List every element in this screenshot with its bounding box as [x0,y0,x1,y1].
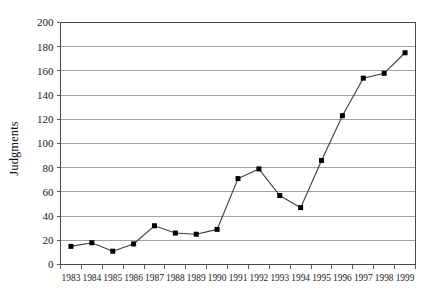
x-tick-label: 1986 [124,273,143,283]
y-tick-label: 200 [37,16,54,28]
y-tick-label: 80 [43,162,55,174]
y-tick-label: 0 [48,258,54,270]
x-tick-label: 1989 [187,273,206,283]
plot-area: 0204060801001201401601802001983198419851… [0,0,437,297]
series-line-judgments [71,53,405,251]
y-tick-label: 20 [43,234,55,246]
data-point-marker [68,244,73,249]
y-tick-label: 180 [37,41,54,53]
y-tick-label: 120 [37,113,54,125]
x-tick-label: 1983 [62,273,81,283]
y-tick-label: 100 [37,137,54,149]
x-tick-label: 1996 [333,273,352,283]
data-point-marker [215,227,220,232]
data-point-marker [236,176,241,181]
data-point-marker [131,241,136,246]
data-point-marker [194,232,199,237]
y-tick-label: 140 [37,89,54,101]
x-tick-label: 1999 [396,273,415,283]
data-point-marker [340,113,345,118]
x-tick-label: 1993 [270,273,289,283]
data-point-marker [319,158,324,163]
data-point-marker [173,231,178,236]
x-tick-label: 1992 [250,273,269,283]
data-point-marker [152,223,157,228]
x-tick-label: 1990 [208,273,227,283]
x-tick-label: 1994 [291,273,310,283]
y-tick-label: 160 [37,65,54,77]
data-point-marker [256,166,261,171]
x-tick-label: 1995 [312,273,331,283]
data-point-marker [110,249,115,254]
x-tick-label: 1987 [145,273,164,283]
x-tick-label: 1997 [354,273,373,283]
y-tick-label: 60 [43,186,55,198]
x-tick-label: 1988 [166,273,185,283]
line-chart-figure: Judgments 020406080100120140160180200198… [0,0,437,297]
x-tick-label: 1998 [375,273,394,283]
x-tick-label: 1991 [229,273,248,283]
data-point-marker [298,205,303,210]
x-tick-label: 1985 [103,273,122,283]
y-tick-label: 40 [43,210,55,222]
data-point-marker [277,193,282,198]
data-point-marker [89,240,94,245]
data-point-marker [382,71,387,76]
data-point-marker [361,76,366,81]
x-tick-label: 1984 [82,273,101,283]
data-point-marker [403,50,408,55]
